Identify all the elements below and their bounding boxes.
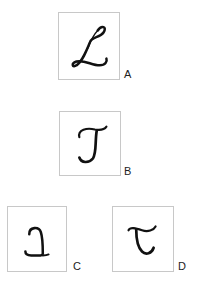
option-b-box[interactable] — [59, 111, 121, 176]
option-d-label: D — [178, 261, 186, 272]
option-c-label: C — [73, 261, 81, 272]
option-a-label: A — [124, 69, 131, 80]
script-t-variant-icon — [113, 207, 173, 271]
option-a-box[interactable] — [58, 12, 120, 80]
mirrored-script-l-icon — [8, 207, 66, 271]
script-l-icon — [59, 13, 119, 79]
option-d-box[interactable] — [112, 206, 174, 272]
option-b-label: B — [124, 166, 131, 177]
script-t-icon — [60, 112, 120, 175]
option-c-box[interactable] — [7, 206, 67, 272]
